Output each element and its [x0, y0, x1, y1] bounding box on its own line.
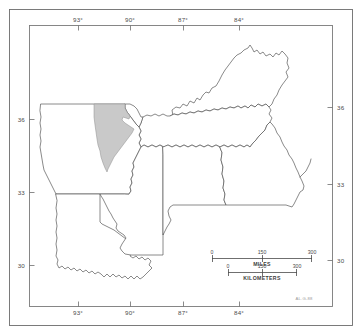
lat-label-left-33: 33: [18, 189, 26, 196]
lon-label-bottom-87: 87°: [178, 309, 188, 316]
lat-label-right-36: 36: [337, 104, 345, 111]
scalebar-miles-tick-300: 300: [308, 249, 317, 255]
left-tick-marks: [30, 120, 35, 266]
bottom-longitude-labels: 93° 90° 87° 84°: [73, 309, 244, 316]
lon-label-bottom-84: 84°: [234, 309, 244, 316]
scalebar-miles-tick-0: 0: [211, 249, 214, 255]
right-latitude-labels: 36 33 30: [337, 104, 345, 264]
top-tick-marks: [79, 26, 240, 31]
scalebar-km-tick-150: 150: [258, 263, 267, 269]
scalebar-kilometers: 0 150 300 KILOMETERS: [227, 263, 302, 281]
state-tennessee: [139, 104, 272, 147]
lat-label-right-33: 33: [337, 181, 345, 188]
lon-label-top-84: 84°: [234, 16, 244, 23]
lon-label-top-87: 87°: [178, 16, 188, 23]
left-latitude-labels: 36 33 30: [18, 116, 26, 269]
scalebar-km-unit: KILOMETERS: [243, 275, 281, 281]
scalebar-km-tick-0: 0: [227, 263, 230, 269]
lon-label-bottom-93: 93°: [73, 309, 83, 316]
lon-label-bottom-90: 90°: [125, 309, 135, 316]
index-map-figure: 0 150 300 MILES 0 150 300 KILOMETERS AL.…: [0, 0, 362, 335]
lon-label-top-93: 93°: [73, 16, 83, 23]
lat-label-left-36: 36: [18, 116, 26, 123]
credit-code: AL.G-88: [296, 296, 313, 301]
top-longitude-labels: 93° 90° 87° 84°: [73, 16, 244, 23]
state-alabama: [163, 145, 226, 235]
state-carolina-edge: [300, 159, 311, 177]
map-canvas: 0 150 300 MILES 0 150 300 KILOMETERS AL.…: [0, 0, 362, 335]
scalebar-km-tick-300: 300: [293, 263, 302, 269]
bottom-tick-marks: [79, 302, 240, 307]
lat-label-right-30: 30: [337, 257, 345, 264]
lon-label-top-90: 90°: [125, 16, 135, 23]
right-tick-marks: [328, 108, 333, 261]
lat-label-left-30: 30: [18, 262, 26, 269]
scalebar-miles-tick-150: 150: [258, 249, 267, 255]
